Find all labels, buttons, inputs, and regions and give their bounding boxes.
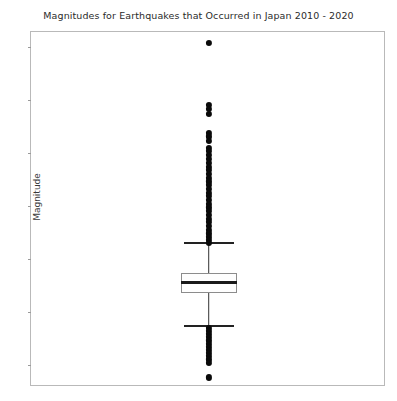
outlier-point <box>205 138 211 144</box>
lower-whisker <box>208 293 210 326</box>
plot-area: Magnitude 3456789 <box>30 31 385 386</box>
outlier-point <box>205 111 211 117</box>
upper-whisker <box>208 243 210 272</box>
chart-title: Magnitudes for Earthquakes that Occurred… <box>0 10 397 21</box>
outlier-point <box>205 240 211 246</box>
boxplot-series <box>31 32 384 385</box>
outlier-point <box>205 40 211 46</box>
outlier-point <box>205 374 211 380</box>
median-line <box>181 281 237 284</box>
matplotlib-figure: Magnitudes for Earthquakes that Occurred… <box>0 0 397 401</box>
outlier-point <box>205 360 211 366</box>
